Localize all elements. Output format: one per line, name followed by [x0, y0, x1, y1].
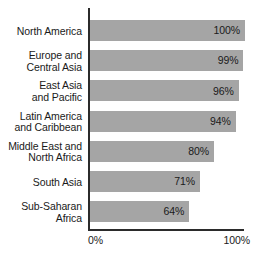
- bar-value-label: 94%: [210, 116, 231, 127]
- bar-track: 99%: [90, 50, 245, 71]
- bar-track: 71%: [90, 171, 245, 192]
- bar: 94%: [90, 111, 236, 132]
- category-label: Europe and Central Asia: [0, 51, 82, 74]
- bar: 80%: [90, 141, 214, 162]
- bar: 64%: [90, 201, 189, 222]
- bar: 96%: [90, 80, 239, 101]
- bar-track: 96%: [90, 80, 245, 101]
- category-label: Latin America and Caribbean: [0, 111, 82, 134]
- bar-value-label: 96%: [213, 86, 234, 97]
- bar-chart: North America 100% Europe and Central As…: [0, 0, 261, 262]
- bar-track: 94%: [90, 111, 245, 132]
- bar-track: 80%: [90, 141, 245, 162]
- bar-row: North America 100%: [0, 17, 261, 47]
- category-label: East Asia and Pacific: [0, 81, 82, 104]
- bar-row: Latin America and Caribbean 94%: [0, 108, 261, 138]
- x-tick-label-max: 100%: [224, 234, 250, 247]
- bar-track: 64%: [90, 201, 245, 222]
- bar-row: Europe and Central Asia 99%: [0, 47, 261, 77]
- category-label: Middle East and North Africa: [0, 141, 82, 164]
- category-label: North America: [0, 26, 82, 38]
- bar-value-label: 64%: [163, 206, 184, 217]
- bar-row: East Asia and Pacific 96%: [0, 77, 261, 107]
- bar-value-label: 71%: [174, 176, 195, 187]
- bar: 71%: [90, 171, 200, 192]
- bar-value-label: 99%: [218, 55, 239, 66]
- bar-value-label: 100%: [214, 25, 240, 36]
- x-tick-label-min: 0%: [88, 234, 103, 247]
- plot-area: North America 100% Europe and Central As…: [0, 0, 261, 262]
- bar-row: Middle East and North Africa 80%: [0, 138, 261, 168]
- bar-row: Sub-Saharan Africa 64%: [0, 198, 261, 228]
- bar: 100%: [90, 20, 245, 41]
- bar-track: 100%: [90, 20, 245, 41]
- bar-row: South Asia 71%: [0, 168, 261, 198]
- bar-value-label: 80%: [188, 146, 209, 157]
- x-axis-line: [88, 229, 244, 231]
- x-axis-tick-labels: 0% 100%: [88, 234, 250, 250]
- category-label: South Asia: [0, 177, 82, 189]
- bar: 99%: [90, 50, 243, 71]
- category-label: Sub-Saharan Africa: [0, 202, 82, 225]
- bar-rows: North America 100% Europe and Central As…: [0, 17, 261, 228]
